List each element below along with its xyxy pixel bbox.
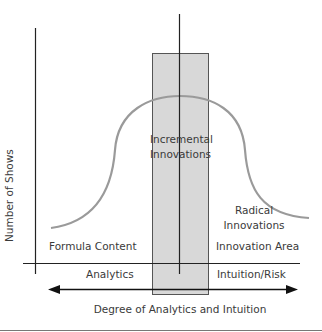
radical-line2: Innovations bbox=[214, 219, 294, 232]
incremental-band bbox=[153, 54, 209, 295]
intuition-risk-label: Intuition/Risk bbox=[217, 268, 286, 281]
incremental-innovations-label: Incremental Innovations bbox=[150, 133, 210, 161]
formula-content-label: Formula Content bbox=[49, 240, 137, 253]
innovation-area-label: Innovation Area bbox=[216, 240, 299, 253]
radical-innovations-label: Radical Innovations bbox=[214, 204, 294, 232]
x-axis-title: Degree of Analytics and Intuition bbox=[80, 303, 280, 316]
analytics-label: Analytics bbox=[86, 268, 134, 281]
arrow-right-icon bbox=[286, 285, 298, 294]
y-axis-label: Number of Shows bbox=[3, 152, 17, 242]
innovation-diagram bbox=[0, 0, 322, 332]
radical-line1: Radical bbox=[214, 204, 294, 217]
incremental-line1: Incremental bbox=[150, 133, 210, 146]
incremental-line2: Innovations bbox=[150, 148, 210, 161]
arrow-left-icon bbox=[48, 285, 60, 294]
